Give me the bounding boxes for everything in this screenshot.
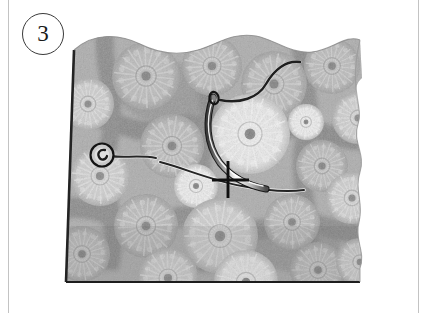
- page-canvas: 3: [0, 0, 433, 313]
- thread-knot: [91, 144, 114, 167]
- step-number-badge: 3: [22, 13, 64, 55]
- page-margin-rule-right: [418, 0, 419, 313]
- step-number-label: 3: [37, 22, 49, 47]
- page-margin-rule-left: [8, 0, 9, 313]
- sewing-step-illustration: [60, 26, 370, 288]
